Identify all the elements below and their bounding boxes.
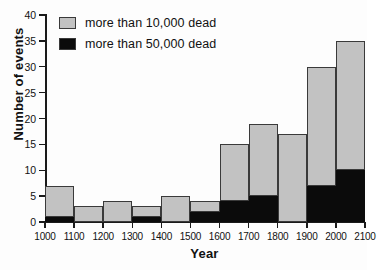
y-tick-label: 30	[0, 61, 36, 73]
bar-segment-over-10000[interactable]	[307, 67, 336, 186]
bar-column[interactable]	[336, 15, 365, 222]
y-tick-label: 15	[0, 138, 36, 150]
bar-segment-over-50000[interactable]	[336, 170, 365, 222]
x-tick-mark	[132, 222, 133, 228]
bar-column[interactable]	[220, 15, 249, 222]
bar-segment-over-10000[interactable]	[220, 144, 249, 201]
y-tick-label: 25	[0, 87, 36, 99]
bar-segment-over-10000[interactable]	[336, 41, 365, 170]
legend-item-50000: more than 50,000 dead	[59, 33, 216, 54]
y-tick-label: 20	[0, 113, 36, 125]
y-tick-label: 35	[0, 35, 36, 47]
x-tick-mark	[248, 222, 249, 228]
bar-segment-over-10000[interactable]	[132, 206, 161, 216]
y-tick-label: 5	[0, 190, 36, 202]
bar-column[interactable]	[249, 15, 278, 222]
x-tick-mark	[219, 222, 220, 228]
x-tick-label: 2100	[345, 231, 381, 242]
x-tick-mark	[306, 222, 307, 228]
x-tick-mark	[190, 222, 191, 228]
x-tick-mark	[44, 222, 45, 228]
x-tick-mark	[335, 222, 336, 228]
bar-segment-over-10000[interactable]	[249, 124, 278, 196]
black-swatch-icon	[59, 38, 76, 50]
y-tick-label: 40	[0, 9, 36, 21]
x-tick-mark	[364, 222, 365, 228]
x-tick-mark	[102, 222, 103, 228]
legend-label-10000: more than 10,000 dead	[85, 16, 216, 30]
legend-label-50000: more than 50,000 dead	[85, 37, 216, 51]
bar-segment-over-50000[interactable]	[132, 217, 161, 222]
bar-column[interactable]	[278, 15, 307, 222]
bar-segment-over-10000[interactable]	[190, 201, 219, 211]
y-tick-label: 0	[0, 216, 36, 228]
x-tick-mark	[277, 222, 278, 228]
bar-segment-over-10000[interactable]	[278, 134, 307, 222]
x-tick-mark	[161, 222, 162, 228]
x-axis-title: Year	[44, 246, 365, 261]
bar-segment-over-10000[interactable]	[74, 206, 103, 222]
bar-segment-over-10000[interactable]	[161, 196, 190, 222]
y-tick-label: 10	[0, 164, 36, 176]
bar-segment-over-50000[interactable]	[220, 201, 249, 222]
bar-column[interactable]	[307, 15, 336, 222]
chart-legend: more than 10,000 dead more than 50,000 d…	[59, 12, 216, 54]
bar-segment-over-50000[interactable]	[249, 196, 278, 222]
bar-segment-over-50000[interactable]	[307, 186, 336, 222]
gray-swatch-icon	[59, 17, 76, 29]
bar-segment-over-50000[interactable]	[45, 217, 74, 222]
legend-item-10000: more than 10,000 dead	[59, 12, 216, 33]
bar-segment-over-10000[interactable]	[45, 186, 74, 217]
bar-segment-over-10000[interactable]	[103, 201, 132, 222]
bar-segment-over-50000[interactable]	[190, 212, 219, 222]
x-tick-mark	[73, 222, 74, 228]
